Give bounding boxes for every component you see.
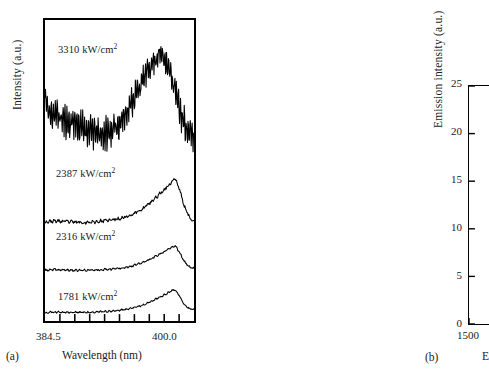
spectrum-label-3310-unit: kW/cm [82, 44, 113, 55]
y-tick-label-15: 15 [436, 173, 462, 185]
panel-b-x-axis-label: Excitation intensity (kW/cm2) [482, 350, 489, 362]
spectrum-label-2387-exp: 2 [112, 166, 116, 175]
figure-container: Intensity (a.u.) 3310 kW/cm2 2387 kW/cm2… [0, 0, 489, 378]
spectrum-label-2316-unit: kW/cm [80, 231, 111, 242]
y-tick-label-5: 5 [436, 269, 462, 281]
panel-a-y-axis-label: Intensity (a.u.) [11, 0, 27, 110]
spectrum-label-2316-exp: 2 [112, 229, 116, 238]
y-tick-label-20: 20 [436, 125, 462, 137]
y-tick-label-0: 0 [436, 317, 462, 329]
spectrum-label-2316-value: 2316 [56, 231, 77, 242]
spectrum-curve-undefined [45, 47, 194, 152]
panel-a-x-min-label: 384.5 [36, 330, 61, 342]
panel-b-emission-curve: Emission intensity (a.u.) 0510152025 150… [210, 0, 489, 378]
spectrum-label-3310: 3310 kW/cm2 [58, 44, 117, 55]
spectrum-label-3310-exp: 2 [114, 42, 118, 51]
y-tick-label-25: 25 [436, 77, 462, 89]
panel-a-x-max-label: 400.0 [152, 330, 177, 342]
panel-b-plot-frame [468, 85, 489, 325]
panel-a-caption: (a) [6, 350, 19, 362]
spectrum-label-2316: 2316 kW/cm2 [56, 231, 115, 242]
spectrum-label-2387-unit: kW/cm [80, 168, 111, 179]
spectrum-label-2387-value: 2387 [56, 168, 77, 179]
panel-a-x-axis-label: Wavelength (nm) [62, 349, 142, 361]
spectrum-label-3310-value: 3310 [58, 44, 79, 55]
y-tick-label-10: 10 [436, 221, 462, 233]
spectrum-label-2387: 2387 kW/cm2 [56, 168, 115, 179]
panel-b-caption: (b) [425, 351, 438, 363]
panel-b-line-chart-svg [469, 86, 489, 324]
spectrum-label-1781: 1781 kW/cm2 [58, 291, 117, 302]
spectrum-label-1781-value: 1781 [58, 291, 79, 302]
panel-b-x-axis-label-text: Excitation intensity (kW/cm [482, 350, 489, 362]
panel-b-y-axis-label: Emission intensity (a.u.) [432, 0, 448, 128]
x-tick-label-1500: 1500 [446, 329, 489, 341]
panel-a-spectra: Intensity (a.u.) 3310 kW/cm2 2387 kW/cm2… [0, 0, 220, 378]
spectrum-curve-undefined [45, 179, 194, 225]
spectrum-label-1781-exp: 2 [114, 289, 118, 298]
panel-a-plot-frame: 3310 kW/cm2 2387 kW/cm2 2316 kW/cm2 1781… [43, 18, 196, 323]
spectrum-label-1781-unit: kW/cm [82, 291, 113, 302]
spectrum-curve-undefined [45, 246, 194, 272]
